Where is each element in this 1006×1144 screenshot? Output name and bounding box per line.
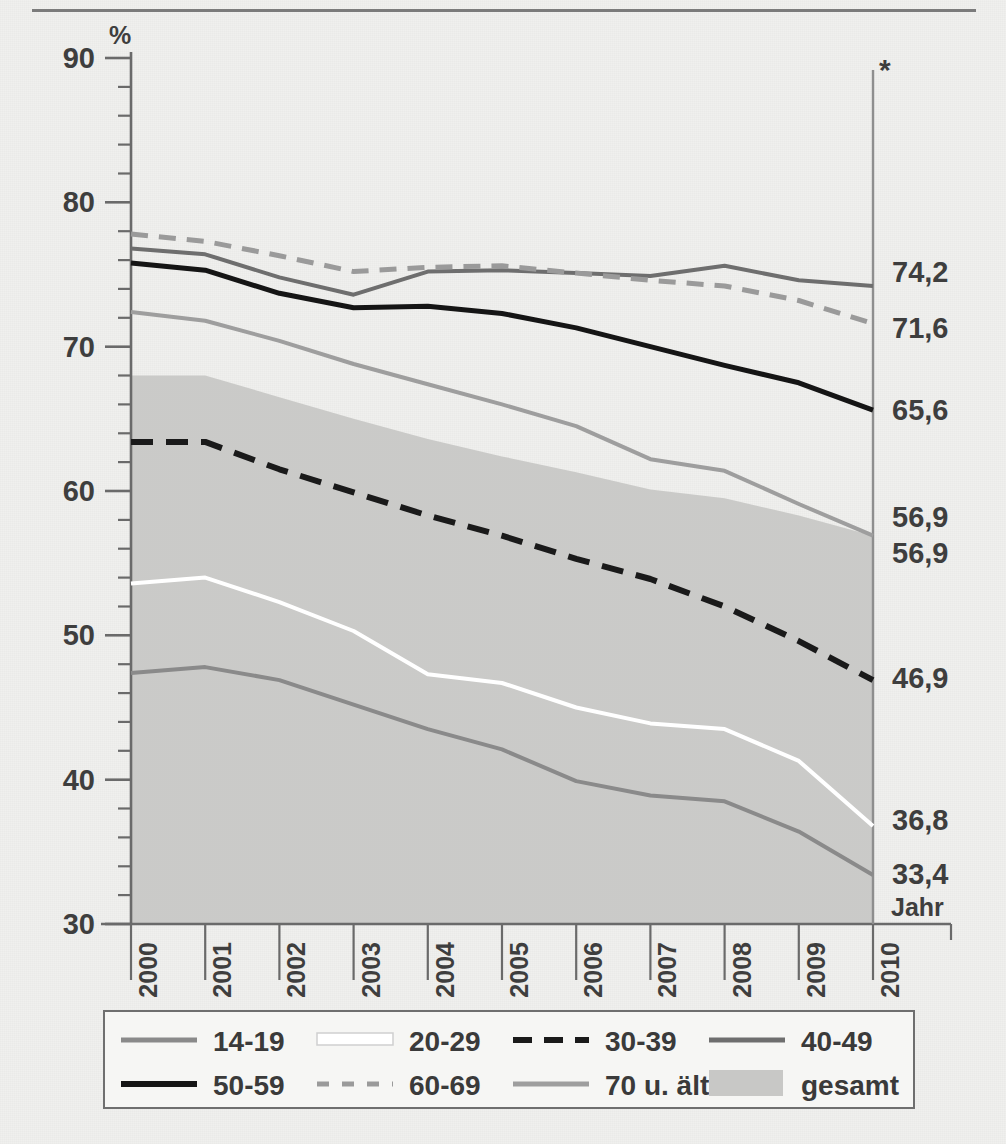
legend-svg: 14-1920-2930-3940-4950-5960-6970 u. älte… bbox=[105, 1012, 913, 1107]
series-line-60-69 bbox=[131, 234, 873, 324]
line-chart: 30405060708090%2000200120022003200420052… bbox=[0, 0, 1006, 1144]
y-tick-label: 90 bbox=[63, 42, 95, 74]
y-tick-label: 50 bbox=[63, 619, 95, 651]
legend-label-30-39: 30-39 bbox=[605, 1026, 677, 1057]
end-value-label-20-29: 36,8 bbox=[892, 804, 948, 836]
x-tick-label: 2009 bbox=[802, 942, 830, 998]
x-tick-label: 2007 bbox=[653, 942, 681, 998]
end-value-label-60-69: 71,6 bbox=[892, 312, 948, 344]
legend-label-gesamt: gesamt bbox=[801, 1070, 899, 1101]
x-tick-label: 2005 bbox=[505, 942, 533, 998]
legend-swatch-gesamt bbox=[709, 1070, 783, 1096]
x-tick-label: 2000 bbox=[134, 942, 162, 998]
x-tick-label: 2004 bbox=[431, 942, 459, 998]
series-line-40-49 bbox=[131, 249, 873, 295]
end-value-label-50-59: 65,6 bbox=[892, 394, 948, 426]
legend-swatch-20-29 bbox=[317, 1033, 393, 1045]
chart-svg: 30405060708090%2000200120022003200420052… bbox=[0, 0, 1006, 1010]
x-axis-title: Jahr bbox=[891, 893, 944, 921]
end-value-label-40-49: 74,2 bbox=[892, 256, 948, 288]
x-tick-label: 2008 bbox=[728, 942, 756, 998]
x-tick-label: 2001 bbox=[208, 942, 236, 998]
chart-legend: 14-1920-2930-3940-4950-5960-6970 u. älte… bbox=[103, 1010, 915, 1109]
y-tick-label: 60 bbox=[63, 475, 95, 507]
y-axis-unit-label: % bbox=[109, 21, 131, 49]
y-tick-label: 70 bbox=[63, 331, 95, 363]
legend-label-40-49: 40-49 bbox=[801, 1026, 873, 1057]
end-value-label-30-39: 46,9 bbox=[892, 662, 948, 694]
x-tick-label: 2002 bbox=[282, 942, 310, 998]
x-tick-label: 2003 bbox=[357, 942, 385, 998]
legend-label-20-29: 20-29 bbox=[409, 1026, 481, 1057]
y-tick-label: 30 bbox=[63, 908, 95, 940]
legend-label-60-69: 60-69 bbox=[409, 1070, 481, 1101]
y-tick-label: 40 bbox=[63, 764, 95, 796]
legend-label-14-19: 14-19 bbox=[213, 1026, 285, 1057]
provisional-asterisk: * bbox=[879, 53, 891, 86]
x-tick-label: 2010 bbox=[876, 942, 904, 998]
end-value-label-14-19: 33,4 bbox=[892, 858, 948, 890]
legend-label-50-59: 50-59 bbox=[213, 1070, 285, 1101]
end-value-label-70-u-lter: 56,9 bbox=[892, 501, 948, 533]
x-tick-label: 2006 bbox=[579, 942, 607, 998]
y-tick-label: 80 bbox=[63, 186, 95, 218]
end-value-label-gesamt: 56,9 bbox=[892, 537, 948, 569]
